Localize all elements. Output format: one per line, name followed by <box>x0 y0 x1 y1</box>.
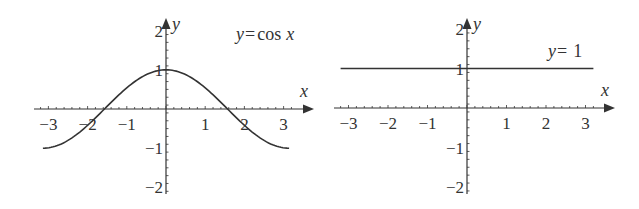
y-tick-label: −1 <box>145 139 163 158</box>
x-tick-label: −1 <box>118 115 136 134</box>
y-tick-label: 2 <box>456 20 465 39</box>
x-tick-label: −3 <box>39 115 57 134</box>
x-tick-label: 1 <box>502 114 511 133</box>
x-axis-arrow-icon <box>303 105 314 114</box>
x-tick-label: −3 <box>339 114 357 133</box>
x-tick-label: 1 <box>201 115 210 134</box>
x-tick-label: 3 <box>581 114 590 133</box>
equation-label: y=1 <box>546 41 582 61</box>
cos-chart: −3−2−112321−1−2xyy=cosx <box>34 14 314 197</box>
x-axis-label: x <box>600 80 609 100</box>
x-tick-label: 2 <box>542 114 551 133</box>
y-axis-label: y <box>471 14 481 34</box>
x-tick-label: 3 <box>279 115 288 134</box>
constant-chart: −3−2−112321−1−2xyy=1 <box>334 14 615 197</box>
x-axis-arrow-icon <box>604 104 615 113</box>
y-tick-label: −2 <box>145 178 163 197</box>
y-tick-label: −1 <box>446 139 464 158</box>
y-tick-label: −2 <box>446 178 464 197</box>
x-tick-label: −1 <box>418 114 436 133</box>
y-tick-label: 2 <box>155 22 164 41</box>
equation-label: y=cosx <box>234 24 294 44</box>
chart-canvas: −3−2−112321−1−2xyy=cosx−3−2−112321−1−2xy… <box>0 0 639 209</box>
x-axis-label: x <box>299 81 308 101</box>
y-axis-label: y <box>170 14 180 34</box>
x-tick-label: −2 <box>379 114 397 133</box>
